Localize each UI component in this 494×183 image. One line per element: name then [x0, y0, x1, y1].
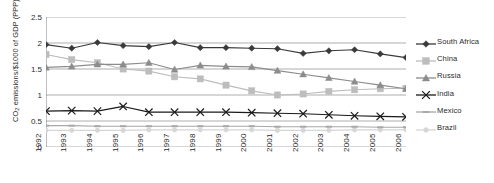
legend-item-south-africa[interactable]: South Africa — [415, 33, 494, 50]
marker-dot — [352, 128, 357, 133]
marker-square — [171, 74, 177, 80]
chart-legend: South AfricaChinaRussiaIndiaMexicoBrazil — [415, 33, 494, 136]
y-axis-tick-labels: 00.511.522.5 — [18, 0, 42, 183]
marker-diamond — [300, 50, 306, 56]
marker-diamond — [403, 54, 406, 60]
marker-square — [46, 51, 49, 57]
x-axis-tick-1995: 1995 — [111, 133, 120, 152]
marker-diamond — [69, 45, 75, 51]
x-axis-tick-2002: 2002 — [291, 133, 300, 152]
series-south-africa — [46, 39, 406, 60]
marker-diamond — [423, 40, 430, 47]
marker-diamond — [351, 47, 357, 53]
marker-square — [300, 91, 306, 97]
marker-dot — [424, 127, 429, 132]
legend-item-brazil[interactable]: Brazil — [415, 119, 494, 136]
marker-diamond — [274, 46, 280, 52]
series-brazil — [46, 128, 406, 133]
marker-dot — [46, 128, 48, 133]
marker-square — [223, 82, 229, 88]
marker-square — [326, 88, 332, 94]
marker-dot — [198, 128, 203, 133]
marker-square — [69, 57, 75, 63]
legend-marker-cross-icon — [415, 87, 437, 99]
marker-dot — [224, 128, 229, 133]
legend-marker-triangle-icon — [415, 70, 437, 82]
chart-svg — [46, 17, 406, 147]
y-axis-tick-3: 1.5 — [20, 65, 42, 74]
marker-diamond — [120, 43, 126, 49]
marker-diamond — [326, 48, 332, 54]
marker-square — [351, 87, 357, 93]
marker-square — [146, 68, 152, 74]
x-axis-tick-1994: 1994 — [85, 133, 94, 152]
legend-label: Brazil — [437, 123, 457, 132]
marker-diamond — [94, 39, 100, 45]
marker-dot — [172, 128, 177, 133]
marker-diamond — [197, 45, 203, 51]
marker-diamond — [249, 45, 255, 51]
series-india — [46, 103, 406, 121]
marker-dot — [275, 128, 280, 133]
series-china — [46, 51, 406, 98]
x-axis-tick-1992: 1992 — [34, 133, 43, 152]
x-axis-tick-2001: 2001 — [265, 133, 274, 152]
x-axis-tick-1998: 1998 — [188, 133, 197, 152]
x-axis-tick-2003: 2003 — [316, 133, 325, 152]
legend-marker-svg — [415, 55, 437, 67]
marker-diamond — [377, 51, 383, 57]
legend-marker-svg — [415, 38, 437, 50]
marker-dot — [69, 128, 74, 133]
marker-diamond — [223, 45, 229, 51]
legend-marker-svg — [415, 106, 437, 118]
chart-container: CO2 emissions/$1000 of GDP (PPP) 00.511.… — [0, 0, 494, 183]
marker-square — [423, 57, 430, 64]
x-axis-tick-2006: 2006 — [394, 133, 403, 152]
legend-marker-svg — [415, 72, 437, 84]
marker-dot — [327, 128, 332, 133]
x-axis-tick-1996: 1996 — [136, 133, 145, 152]
legend-label: Mexico — [437, 106, 462, 115]
legend-label: India — [437, 89, 454, 98]
legend-item-russia[interactable]: Russia — [415, 67, 494, 84]
y-axis-tick-5: 2.5 — [20, 13, 42, 22]
x-axis-tick-2005: 2005 — [368, 133, 377, 152]
marker-diamond — [46, 41, 49, 47]
series-mexico — [46, 126, 406, 128]
marker-dot — [249, 128, 254, 133]
x-axis-tick-2000: 2000 — [239, 133, 248, 152]
legend-marker-svg — [415, 124, 437, 136]
legend-marker-dash-icon — [415, 104, 437, 116]
marker-dot — [121, 128, 126, 133]
x-axis-tick-1999: 1999 — [214, 133, 223, 152]
legend-item-mexico[interactable]: Mexico — [415, 102, 494, 119]
marker-dot — [301, 128, 306, 133]
legend-label: South Africa — [437, 37, 479, 46]
x-axis-tick-1997: 1997 — [162, 133, 171, 152]
legend-marker-square-icon — [415, 53, 437, 65]
y-axis-tick-2: 1 — [20, 91, 42, 100]
legend-item-china[interactable]: China — [415, 50, 494, 67]
marker-square — [274, 92, 280, 98]
marker-square — [197, 76, 203, 82]
y-axis-tick-1: 0.5 — [20, 117, 42, 126]
legend-marker-svg — [415, 89, 437, 101]
legend-item-india[interactable]: India — [415, 85, 494, 102]
marker-square — [249, 88, 255, 94]
marker-diamond — [171, 39, 177, 45]
legend-label: Russia — [437, 71, 461, 80]
marker-dot — [95, 128, 100, 133]
plot-area — [46, 17, 406, 147]
marker-diamond — [146, 44, 152, 50]
x-axis-tick-1993: 1993 — [59, 133, 68, 152]
x-axis-tick-2004: 2004 — [342, 133, 351, 152]
y-axis-tick-4: 2 — [20, 39, 42, 48]
legend-marker-diamond-icon — [415, 36, 437, 48]
legend-marker-dot-icon — [415, 122, 437, 134]
marker-dot — [147, 128, 152, 133]
legend-label: China — [437, 54, 457, 63]
